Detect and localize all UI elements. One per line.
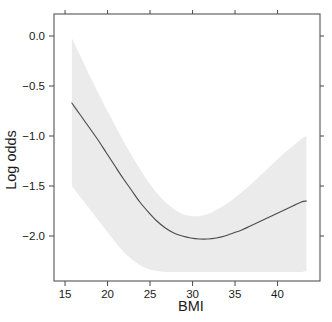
x-tick-label: 35 [229, 288, 242, 300]
x-axis-title: BMI [178, 298, 204, 314]
y-tick-label: −1.5 [22, 180, 45, 192]
y-tick-label: −1.0 [22, 130, 45, 142]
y-tick-label: 0.0 [29, 30, 45, 42]
y-axis-title: Log odds [3, 130, 19, 190]
x-tick-label: 25 [144, 288, 157, 300]
x-tick-label: 20 [101, 288, 114, 300]
log-odds-chart: 152025303540 0.0−0.5−1.0−1.5−2.0 BMI Log… [0, 0, 332, 322]
y-tick-label: −0.5 [22, 80, 45, 92]
y-tick-label: −2.0 [22, 230, 45, 242]
chart-figure: 152025303540 0.0−0.5−1.0−1.5−2.0 BMI Log… [0, 0, 332, 322]
x-tick-label: 15 [59, 288, 72, 300]
x-tick-label: 40 [271, 288, 284, 300]
